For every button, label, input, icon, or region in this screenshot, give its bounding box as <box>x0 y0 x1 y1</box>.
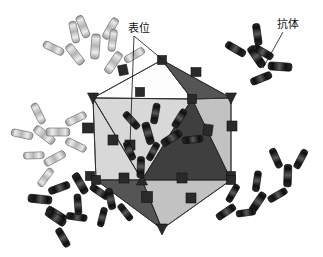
epitope-block <box>108 135 118 145</box>
epitope-block <box>118 64 129 76</box>
antibody-capsid-figure: 表位 抗体 <box>0 0 323 257</box>
capsid-vertex-marker <box>92 176 101 185</box>
epitope-block <box>83 123 94 133</box>
capsid-vertex-marker <box>188 95 197 104</box>
epitope-block <box>177 173 187 183</box>
capsid-vertex-marker <box>227 176 236 185</box>
epitope-block <box>203 124 213 136</box>
epitope-block <box>119 173 129 183</box>
epitope-block <box>227 121 237 131</box>
epitope-label: 表位 <box>128 21 150 35</box>
epitope-block <box>142 192 153 203</box>
antibody-label: 抗体 <box>277 17 299 31</box>
epitope-block <box>191 68 201 77</box>
epitope-block <box>186 193 196 203</box>
epitope-block <box>136 88 145 97</box>
